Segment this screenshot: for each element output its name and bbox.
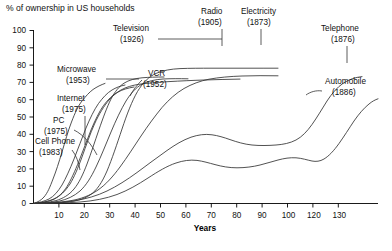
x-tick-label: 20 [80, 211, 90, 220]
annotation-label-microwave: Microwave [57, 65, 97, 74]
annotation-year-radio: (1905) [198, 18, 222, 27]
x-axis-title: Years [194, 223, 217, 233]
y-tick-label: 0 [21, 199, 26, 208]
annotation-label-vcr: VCR [148, 69, 165, 78]
x-tick-label: 50 [156, 211, 166, 220]
annotation-label-cell-phone: Cell Phone [35, 137, 76, 146]
y-tick-label: 80 [17, 61, 27, 70]
x-axis-tick-labels: 10 20 30 40 50 60 70 80 90 100 120 130 [54, 211, 346, 220]
annotation-vcr: VCR (1952) [130, 69, 167, 96]
annotation-label-television: Television [113, 24, 149, 33]
y-tick-label: 90 [17, 44, 27, 53]
x-tick-label: 70 [207, 211, 217, 220]
y-tick-label: 60 [17, 96, 27, 105]
x-tick-label: 90 [258, 211, 268, 220]
annotation-year-electricity: (1873) [247, 18, 271, 27]
annotation-automobile: Automobile (1886) [306, 77, 366, 97]
y-axis-ticks [30, 31, 34, 204]
annotation-year-telephone: (1876) [331, 35, 355, 44]
x-tick-label: 10 [54, 211, 64, 220]
annotation-year-television: (1926) [120, 35, 144, 44]
annotation-radio: Radio (1905) [198, 7, 223, 39]
annotation-electricity: Electricity (1873) [241, 7, 277, 45]
annotation-telephone: Telephone (1876) [321, 24, 359, 63]
annotation-year-vcr: (1952) [143, 80, 167, 89]
annotation-label-automobile: Automobile [325, 77, 366, 86]
y-tick-label: 10 [17, 182, 27, 191]
y-axis-tick-labels: 0 10 20 30 40 50 60 70 80 90 100 [12, 26, 26, 208]
annotation-year-automobile: (1886) [332, 88, 356, 97]
x-tick-label: 80 [232, 211, 242, 220]
annotation-label-telephone: Telephone [321, 24, 359, 33]
annotation-year-cell-phone: (1983) [39, 148, 63, 157]
y-tick-label: 20 [17, 165, 27, 174]
y-tick-label: 100 [12, 26, 26, 35]
annotation-label-electricity: Electricity [241, 7, 277, 16]
x-axis-ticks [59, 204, 338, 208]
annotation-label-internet: Internet [57, 94, 85, 103]
annotation-label-pc: PC [53, 116, 64, 125]
x-tick-label: 30 [105, 211, 115, 220]
technology-adoption-chart: % of ownership in US households 0 10 20 … [0, 0, 392, 251]
chart-title: % of ownership in US households [6, 3, 135, 13]
annotation-label-radio: Radio [201, 7, 223, 16]
curve-automobile [34, 99, 379, 204]
x-tick-label: 130 [332, 211, 346, 220]
x-tick-label: 40 [131, 211, 141, 220]
y-tick-label: 50 [17, 113, 27, 122]
x-tick-label: 120 [307, 211, 321, 220]
x-tick-label: 60 [181, 211, 191, 220]
annotation-year-pc: (1975) [44, 127, 68, 136]
y-tick-label: 30 [17, 148, 27, 157]
x-tick-label: 100 [282, 211, 296, 220]
annotation-year-microwave: (1953) [66, 76, 90, 85]
annotation-year-internet: (1975) [62, 105, 86, 114]
annotation-television: Television (1926) [113, 24, 222, 46]
y-tick-label: 70 [17, 78, 27, 87]
y-tick-label: 40 [17, 130, 27, 139]
